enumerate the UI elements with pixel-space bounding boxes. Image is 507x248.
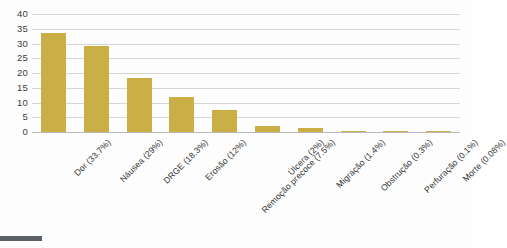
y-tick-label: 10: [17, 98, 28, 108]
bar[interactable]: [426, 131, 451, 132]
y-tick-label: 20: [17, 68, 28, 78]
x-category-label: Migração (1.4%): [335, 138, 387, 190]
bar[interactable]: [169, 97, 194, 132]
plot-area: [32, 14, 460, 132]
y-tick-label: 30: [17, 39, 28, 49]
bar[interactable]: [84, 46, 109, 132]
bar[interactable]: [341, 131, 366, 132]
y-tick-label: 25: [17, 54, 28, 64]
y-axis-tick-labels: 0510152025303540: [0, 14, 28, 132]
bar[interactable]: [298, 128, 323, 132]
bar[interactable]: [41, 33, 66, 132]
bar[interactable]: [255, 126, 280, 132]
bar[interactable]: [127, 78, 152, 132]
y-tick-label: 0: [23, 127, 28, 137]
y-tick-label: 15: [17, 83, 28, 93]
x-category-label: DRGE (18.3%): [162, 138, 209, 185]
x-category-label: Dor (33.7%): [73, 138, 113, 178]
gridline: [32, 132, 460, 133]
bar[interactable]: [383, 131, 408, 132]
bars: [32, 14, 460, 132]
y-tick-label: 5: [23, 113, 28, 123]
y-tick-label: 35: [17, 24, 28, 34]
bar[interactable]: [212, 110, 237, 132]
x-category-label: Erosão (12%): [204, 138, 248, 182]
x-category-label: Remoção precoce (7.5%): [260, 138, 337, 215]
bottom-strip: [0, 236, 42, 241]
x-axis-category-labels: Dor (33.7%)Náusea (29%)DRGE (18.3%)Erosã…: [32, 134, 460, 230]
y-tick-label: 40: [17, 9, 28, 19]
x-category-label: Náusea (29%): [119, 138, 165, 184]
